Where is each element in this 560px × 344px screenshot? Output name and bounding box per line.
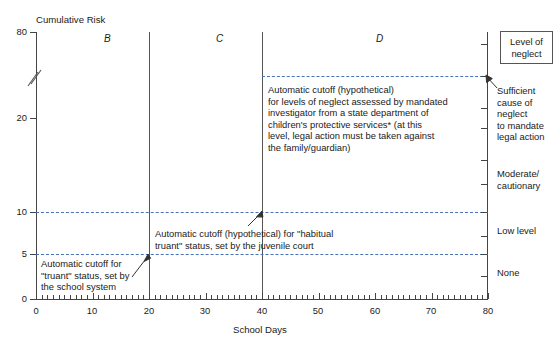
- x-tick-label-0: 0: [16, 305, 56, 316]
- x-minor-tick: [138, 295, 139, 299]
- x-minor-tick: [398, 295, 399, 299]
- x-minor-tick: [307, 295, 308, 299]
- x-minor-tick: [234, 295, 235, 299]
- x-minor-tick: [273, 295, 274, 299]
- x-tick-label-10: 10: [72, 305, 112, 316]
- x-minor-tick: [290, 295, 291, 299]
- x-minor-tick: [482, 295, 483, 299]
- y-tick-label-5: 5: [0, 248, 27, 259]
- y-tick-label-0: 0: [0, 293, 27, 304]
- x-minor-tick: [81, 295, 82, 299]
- right-category-low: Low level: [497, 225, 536, 237]
- x-minor-tick: [448, 295, 449, 299]
- x-minor-tick: [392, 295, 393, 299]
- x-minor-tick: [132, 295, 133, 299]
- x-tick-label-50: 50: [298, 305, 338, 316]
- x-major-tick: [262, 293, 263, 299]
- x-axis-title: School Days: [233, 324, 287, 335]
- x-minor-tick: [143, 295, 144, 299]
- x-minor-tick: [98, 295, 99, 299]
- x-minor-tick: [59, 295, 60, 299]
- region-label-c: C: [216, 33, 223, 44]
- x-minor-tick: [76, 295, 77, 299]
- x-minor-tick: [70, 295, 71, 299]
- arrow-habitual-truant: [248, 211, 263, 226]
- x-minor-tick: [155, 295, 156, 299]
- y-axis-title: Cumulative Risk: [36, 14, 105, 25]
- x-axis-line: [36, 299, 488, 300]
- right-tick-1: [481, 44, 487, 45]
- x-minor-tick: [109, 295, 110, 299]
- cutoff-line-habitual-truant: [36, 212, 488, 213]
- x-minor-tick: [324, 295, 325, 299]
- x-minor-tick: [302, 295, 303, 299]
- right-category-moderate: Moderate/ cautionary: [497, 168, 540, 191]
- x-minor-tick: [42, 295, 43, 299]
- x-minor-tick: [471, 295, 472, 299]
- x-minor-tick: [386, 295, 387, 299]
- annotation-habitual-truant: Automatic cutoff (hypothetical) for "hab…: [155, 228, 405, 251]
- x-major-tick: [206, 293, 207, 299]
- x-minor-tick: [364, 295, 365, 299]
- y-tick-label-20: 20: [0, 112, 27, 123]
- x-major-tick: [93, 293, 94, 299]
- y-tick-80: [30, 32, 37, 33]
- x-minor-tick: [239, 295, 240, 299]
- cutoff-line-neglect: [262, 76, 488, 77]
- x-minor-tick: [228, 295, 229, 299]
- y-tick-label-80: 80: [0, 26, 27, 37]
- x-minor-tick: [268, 295, 269, 299]
- x-minor-tick: [53, 295, 54, 299]
- x-minor-tick: [256, 295, 257, 299]
- x-tick-label-20: 20: [129, 305, 169, 316]
- x-minor-tick: [341, 295, 342, 299]
- x-minor-tick: [477, 295, 478, 299]
- x-minor-tick: [222, 295, 223, 299]
- x-minor-tick: [403, 295, 404, 299]
- x-minor-tick: [285, 295, 286, 299]
- x-minor-tick: [121, 295, 122, 299]
- x-minor-tick: [296, 295, 297, 299]
- x-minor-tick: [426, 295, 427, 299]
- x-minor-tick: [64, 295, 65, 299]
- x-minor-tick: [211, 295, 212, 299]
- x-minor-tick: [347, 295, 348, 299]
- x-minor-tick: [245, 295, 246, 299]
- x-minor-tick: [335, 295, 336, 299]
- x-major-tick: [488, 293, 489, 299]
- region-label-b: B: [104, 33, 111, 44]
- x-minor-tick: [381, 295, 382, 299]
- x-minor-tick: [358, 295, 359, 299]
- x-major-tick: [149, 293, 150, 299]
- right-tick-2: [481, 76, 487, 77]
- right-tick-8: [481, 236, 487, 237]
- right-category-sufficient-l3: neglect: [497, 108, 544, 120]
- x-minor-tick: [415, 295, 416, 299]
- x-minor-tick: [172, 295, 173, 299]
- x-minor-tick: [313, 295, 314, 299]
- right-category-sufficient: Sufficient cause of neglect to mandate l…: [497, 85, 544, 143]
- x-minor-tick: [177, 295, 178, 299]
- x-minor-tick: [166, 295, 167, 299]
- x-minor-tick: [409, 295, 410, 299]
- right-tick-9: [481, 254, 487, 255]
- y-tick-20: [30, 118, 37, 119]
- right-category-sufficient-l4: to mandate: [497, 120, 544, 132]
- x-minor-tick: [104, 295, 105, 299]
- x-minor-tick: [443, 295, 444, 299]
- x-minor-tick: [126, 295, 127, 299]
- x-minor-tick: [194, 295, 195, 299]
- right-tick-3: [481, 108, 487, 109]
- x-tick-label-30: 30: [185, 305, 225, 316]
- x-tick-label-60: 60: [355, 305, 395, 316]
- x-major-tick: [319, 293, 320, 299]
- x-minor-tick: [47, 295, 48, 299]
- x-minor-tick: [420, 295, 421, 299]
- legend-box: Level of neglect: [500, 31, 553, 64]
- region-divider-40: [262, 32, 263, 299]
- right-category-moderate-l2: cautionary: [497, 180, 540, 192]
- cumulative-risk-chart: 80 20 10 5 0 Cumulative Risk B C D Autom…: [0, 0, 560, 344]
- x-minor-tick: [330, 295, 331, 299]
- right-tick-10: [481, 276, 487, 277]
- y-axis-line: [36, 32, 37, 300]
